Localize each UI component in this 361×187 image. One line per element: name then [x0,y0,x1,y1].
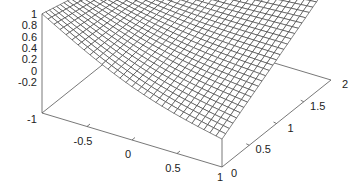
x-tick-label: 0.5 [165,162,180,174]
z-tick-label: 1 [31,8,37,20]
z-tick-label: 0.6 [22,31,37,43]
z-tick-label: 0.4 [22,42,37,54]
z-tick-label: 0 [31,65,37,77]
x-tick-label: -0.5 [74,135,93,147]
y-tick-label: 0 [231,167,237,179]
y-tick-label: 1 [287,122,293,134]
x-tick-label: 0 [125,148,131,160]
x-tick-label: 1 [217,171,223,183]
x-tick-label: -1 [27,113,37,125]
z-tick-label: 0.8 [22,19,37,31]
z-tick-label: -0.2 [18,76,37,88]
y-tick-label: 1.5 [310,100,325,112]
z-tick-label: 0.2 [22,53,37,65]
y-tick-label: 0.5 [256,143,271,155]
y-tick-label: 2 [342,78,348,90]
surface-plot: -1-0.500.51 00.511.52 10.80.60.40.20-0.2 [0,0,361,187]
z-axis-ticks: 10.80.60.40.20-0.2 [18,8,37,88]
surface-mesh [42,0,331,139]
